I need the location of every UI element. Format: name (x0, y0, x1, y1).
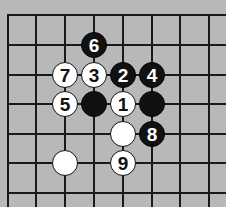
black-stone (139, 91, 165, 117)
white-stone (110, 121, 136, 147)
grid-line-horizontal (7, 44, 226, 46)
white-stone: 3 (81, 62, 107, 88)
black-stone: 2 (110, 62, 136, 88)
grid-line-horizontal (7, 192, 226, 194)
white-stone: 7 (52, 62, 78, 88)
grid-line-horizontal (7, 14, 226, 16)
go-board: 673245189 (0, 0, 226, 207)
black-stone: 8 (139, 121, 165, 147)
black-stone: 6 (81, 32, 107, 58)
white-stone: 5 (52, 91, 78, 117)
white-stone (52, 150, 78, 176)
black-stone: 4 (139, 62, 165, 88)
white-stone: 1 (110, 91, 136, 117)
grid-line-vertical (35, 14, 37, 207)
black-stone (81, 91, 107, 117)
grid-line-vertical (179, 14, 181, 207)
white-stone: 9 (110, 150, 136, 176)
grid-line-vertical (208, 14, 210, 207)
grid-line-vertical (7, 14, 9, 207)
